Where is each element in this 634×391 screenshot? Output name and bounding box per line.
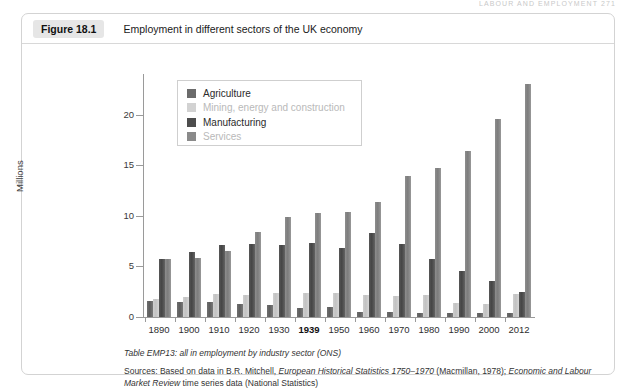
x-axis-tick-label: 1980	[418, 324, 439, 335]
legend-label: Services	[203, 131, 241, 142]
y-axis-tick-label: 15	[108, 159, 134, 170]
bar	[147, 301, 152, 317]
x-axis-tick-label: 1990	[448, 324, 469, 335]
bar	[495, 119, 500, 317]
legend-item: Manufacturing	[187, 115, 361, 129]
y-axis-tick-label: 20	[108, 109, 134, 120]
bar	[285, 217, 290, 317]
x-axis-tick	[235, 318, 236, 322]
bar	[465, 151, 470, 317]
bar	[207, 302, 212, 317]
legend-item: Mining, energy and construction	[187, 101, 361, 115]
bar	[507, 313, 512, 317]
x-axis-tick	[175, 318, 176, 322]
x-axis-tick-label: 1950	[328, 324, 349, 335]
x-axis-tick-label: 1970	[388, 324, 409, 335]
bar	[213, 294, 218, 317]
bar	[183, 297, 188, 317]
bar	[375, 202, 380, 317]
y-axis-tick	[136, 216, 144, 217]
bar	[153, 299, 158, 317]
bar	[483, 304, 488, 317]
x-axis-tick	[145, 318, 146, 322]
bar	[165, 259, 170, 317]
figure-panel: Figure 18.1 Employment in different sect…	[21, 13, 615, 375]
bar	[345, 212, 350, 317]
bar	[447, 313, 452, 317]
y-axis-tick-label: 10	[108, 210, 134, 221]
bar-group	[147, 74, 170, 317]
bar-group	[477, 74, 500, 317]
bar	[309, 243, 314, 317]
bar	[477, 313, 482, 317]
bar-group	[417, 74, 440, 317]
bar	[363, 295, 368, 317]
bar	[489, 281, 494, 317]
y-axis-tick	[136, 266, 144, 267]
figure-notes: Table EMP13: all in employment by indust…	[124, 348, 594, 389]
note-sources: Sources: Based on data in B.R. Mitchell,…	[124, 365, 594, 389]
bar	[405, 176, 410, 317]
bar	[303, 293, 308, 317]
x-axis-tick-label: 1939	[298, 324, 319, 335]
legend-label: Manufacturing	[203, 117, 266, 128]
y-axis-tick-label: 5	[108, 260, 134, 271]
legend-swatch-icon	[187, 132, 196, 141]
bar	[267, 305, 272, 317]
legend-swatch-icon	[187, 89, 196, 98]
bar	[357, 312, 362, 317]
x-axis-tick-label: 1890	[148, 324, 169, 335]
y-axis-tick	[136, 115, 144, 116]
x-axis-tick	[295, 318, 296, 322]
x-axis-tick	[205, 318, 206, 322]
bar	[519, 292, 524, 317]
bar	[243, 295, 248, 317]
bar	[195, 258, 200, 317]
legend-swatch-icon	[187, 103, 196, 112]
x-axis-tick	[415, 318, 416, 322]
x-axis-tick	[445, 318, 446, 322]
bar	[399, 244, 404, 317]
bar	[225, 251, 230, 317]
note-table-source: Table EMP13: all in employment by indust…	[124, 348, 594, 358]
running-header: LABOUR AND EMPLOYMENT 271	[479, 0, 616, 8]
x-axis-tick	[265, 318, 266, 322]
bar-group	[387, 74, 410, 317]
bar	[417, 313, 422, 317]
figure-caption-bar: Figure 18.1 Employment in different sect…	[22, 14, 614, 44]
bar	[513, 294, 518, 317]
figure-title: Employment in different sectors of the U…	[123, 23, 362, 35]
x-axis-tick	[325, 318, 326, 322]
bar	[279, 245, 284, 317]
y-axis-tick-label: 0	[108, 311, 134, 322]
x-axis-tick	[475, 318, 476, 322]
bar	[387, 312, 392, 317]
figure-number-badge: Figure 18.1	[33, 20, 104, 38]
bar	[333, 293, 338, 317]
x-axis-tick-label: 2000	[478, 324, 499, 335]
x-axis-tick-label: 1920	[238, 324, 259, 335]
legend-label: Mining, energy and construction	[203, 102, 345, 113]
legend-swatch-icon	[187, 118, 196, 127]
bar	[249, 244, 254, 317]
legend-label: Agriculture	[203, 88, 251, 99]
bar	[177, 302, 182, 317]
x-axis-tick-label: 2012	[508, 324, 529, 335]
bar	[423, 295, 428, 317]
chart-area: Millions 05101520 1890190019101920193019…	[22, 44, 614, 376]
bar	[315, 213, 320, 317]
bar	[189, 252, 194, 317]
bar-group	[507, 74, 530, 317]
x-axis-tick	[355, 318, 356, 322]
bar	[429, 259, 434, 317]
bar	[525, 84, 530, 317]
bar	[435, 168, 440, 317]
x-axis-tick-label: 1900	[178, 324, 199, 335]
bar	[237, 304, 242, 317]
legend-item: Services	[187, 130, 361, 144]
bar	[393, 296, 398, 317]
bar	[297, 308, 302, 317]
legend-item: Agriculture	[187, 86, 361, 100]
x-axis-tick	[385, 318, 386, 322]
bar	[339, 248, 344, 317]
